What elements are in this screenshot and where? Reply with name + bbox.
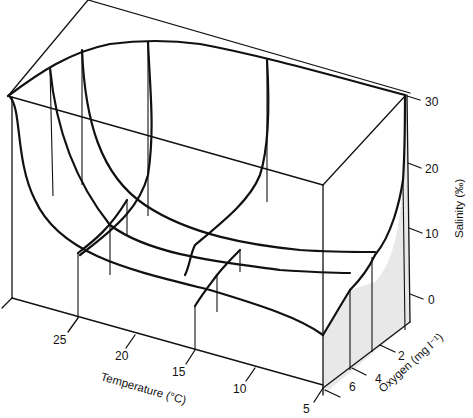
temperature-tick-20: 20	[115, 349, 129, 363]
salinity-tick-30: 30	[425, 95, 439, 109]
salinity-tick-10: 10	[425, 227, 439, 241]
salinity-axis-title: Salinity (‰)	[453, 178, 465, 238]
response-surface-diagram: 25 20 15 10 5 2 4 6 30 20 10 0 Temperatu…	[0, 0, 473, 418]
temperature-tick-25: 25	[53, 333, 67, 347]
oxygen-tick-6: 6	[349, 380, 356, 394]
temperature-tick-10: 10	[233, 382, 247, 396]
temperature-tick-5: 5	[303, 402, 310, 416]
temperature-tick-15: 15	[172, 365, 186, 379]
salinity-tick-0: 0	[428, 293, 435, 307]
salinity-tick-20: 20	[425, 162, 439, 176]
shaded-oxygen-face	[323, 95, 410, 395]
salinity-tick-labels: 30 20 10 0	[425, 95, 439, 307]
